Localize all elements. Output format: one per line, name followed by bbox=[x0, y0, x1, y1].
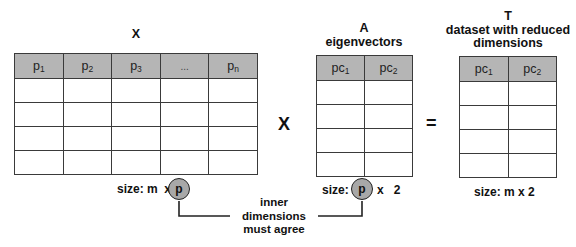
note-line-1: inner bbox=[232, 196, 316, 210]
inner-dimensions-note: inner dimensions must agree bbox=[230, 196, 318, 237]
note-line-3: must agree bbox=[232, 223, 316, 237]
note-line-2: dimensions bbox=[232, 210, 316, 224]
